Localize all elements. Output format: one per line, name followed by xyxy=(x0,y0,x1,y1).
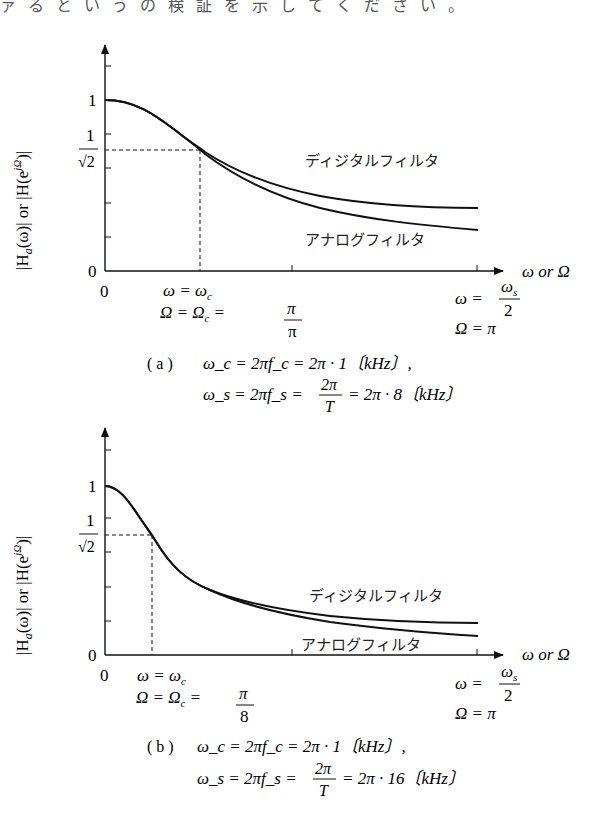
x-ticks xyxy=(292,265,477,271)
y-tick-one: 1 xyxy=(88,91,97,110)
caption-b-line1: ω_c = 2πf_c = 2π · 1〔kHz〕, xyxy=(197,737,406,756)
label-analog-filter: アナログフィルタ xyxy=(305,231,425,249)
cutoff-Omega-eq: Ω = Ωc= xyxy=(160,303,225,324)
caption-a-frac-den: T xyxy=(325,398,335,415)
cutoff-frac-num: π xyxy=(239,684,248,703)
end-frac-den: 2 xyxy=(504,301,513,320)
caption-a-line2-post: = 2π · 8〔kHz〕 xyxy=(348,385,462,404)
caption-a-frac-num: 2π xyxy=(321,376,338,393)
caption-label-a: ( a ) xyxy=(147,355,173,373)
cutoff-omega-eq: ω = ωc xyxy=(137,666,186,687)
caption-b-line2-pre: ω_s = 2πf_s = xyxy=(197,769,297,788)
y-tick-frac-den: √2 xyxy=(78,538,95,555)
figure-canvas: |Ha(ω)| or |H(ejΩ)| 1 1 √2 0 0 xyxy=(0,0,609,839)
y-tick-zero: 0 xyxy=(88,262,97,281)
caption-a-line1: ω_c = 2πf_c = 2π · 1〔kHz〕, xyxy=(203,354,412,373)
end-frac-den: 2 xyxy=(504,686,513,705)
caption-b-frac-num: 2π xyxy=(315,760,332,777)
y-tick-frac-num: 1 xyxy=(86,511,95,530)
y-axis-label: |Ha(ω)| or |H(ejΩ)| xyxy=(11,536,35,655)
cutoff-frac-num: π xyxy=(287,299,296,318)
label-digital-filter: ディジタルフィルタ xyxy=(305,152,439,170)
cutoff-frac-den: 8 xyxy=(240,707,249,726)
caption-b-line2-post: = 2π · 16〔kHz〕 xyxy=(342,769,465,788)
x-tick-zero: 0 xyxy=(100,282,109,301)
panel-a: |Ha(ω)| or |H(ejΩ)| 1 1 √2 0 0 xyxy=(11,45,570,415)
cutoff-Omega-eq: Ω = Ωc= xyxy=(136,688,201,709)
label-analog-filter: アナログフィルタ xyxy=(301,636,421,654)
x-axis-label: ω or Ω xyxy=(522,645,570,664)
end-omega-eq: ω = xyxy=(455,674,483,693)
y-tick-one: 1 xyxy=(88,477,97,496)
end-frac-num: ωs xyxy=(501,277,517,298)
end-Omega-eq: Ω = π xyxy=(455,319,496,338)
caption-label-b: ( b ) xyxy=(147,738,174,756)
analog-filter-curve xyxy=(105,486,478,636)
end-omega-eq: ω = xyxy=(455,289,483,308)
y-tick-frac-num: 1 xyxy=(86,126,95,145)
caption-b-frac-den: T xyxy=(319,782,329,799)
y-ticks xyxy=(105,66,111,237)
x-axis-label: ω or Ω xyxy=(522,262,570,281)
y-tick-zero: 0 xyxy=(88,646,97,665)
cutoff-omega-eq: ω = ωc xyxy=(163,281,212,302)
x-tick-zero: 0 xyxy=(100,666,109,685)
end-frac-num: ωs xyxy=(501,662,517,683)
caption-a-line2-pre: ω_s = 2πf_s = xyxy=(203,385,303,404)
cutoff-frac-den: π xyxy=(288,322,297,341)
label-digital-filter: ディジタルフィルタ xyxy=(309,587,443,605)
y-tick-frac-den: √2 xyxy=(78,153,95,170)
panel-b: |Ha(ω)| or |H(ejΩ)| 1 1 √2 0 0 ディジタルフィルタ… xyxy=(11,428,570,799)
y-axis-label: |Ha(ω)| or |H(ejΩ)| xyxy=(11,151,35,270)
end-Omega-eq: Ω = π xyxy=(455,704,496,723)
